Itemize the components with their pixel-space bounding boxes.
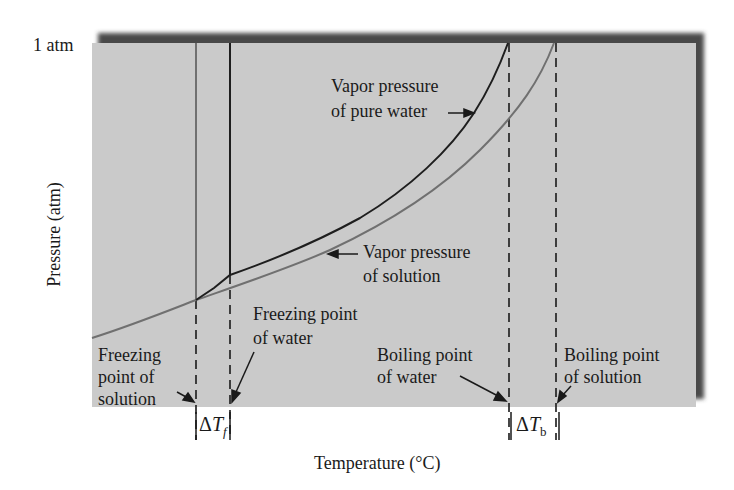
label-fp-solution-2: point of	[98, 367, 155, 387]
label-delta-tb: ΔTb	[516, 414, 547, 442]
t-symbol: T	[529, 413, 540, 435]
label-bp-solution-2: of solution	[564, 367, 642, 387]
label-vp-water-1: Vapor pressure	[331, 76, 438, 96]
label-vp-solution-1: Vapor pressure	[363, 242, 470, 262]
label-bp-water-1: Boiling point	[377, 345, 473, 365]
label-fp-water-2: of water	[253, 328, 312, 348]
phase-diagram: 1 atm Pressure (atm) Temperature (°C) Va…	[0, 0, 734, 490]
delta-symbol: Δ	[516, 413, 529, 435]
y-tick-1atm: 1 atm	[33, 35, 74, 55]
label-fp-solution-3: solution	[98, 389, 156, 409]
delta-symbol: Δ	[199, 413, 212, 435]
label-bp-water-2: of water	[377, 367, 436, 387]
label-vp-water-2: of pure water	[331, 101, 427, 121]
label-fp-solution-1: Freezing	[98, 345, 161, 365]
y-axis-label: Pressure (atm)	[44, 145, 65, 325]
subscript-b: b	[540, 424, 547, 439]
label-vp-solution-2: of solution	[363, 266, 441, 286]
label-delta-tf: ΔTf	[199, 414, 227, 442]
subscript-f: f	[223, 424, 227, 439]
x-axis-label: Temperature (°C)	[314, 453, 440, 473]
t-symbol: T	[212, 413, 223, 435]
label-fp-water-1: Freezing point	[253, 304, 357, 324]
label-bp-solution-1: Boiling point	[564, 345, 660, 365]
